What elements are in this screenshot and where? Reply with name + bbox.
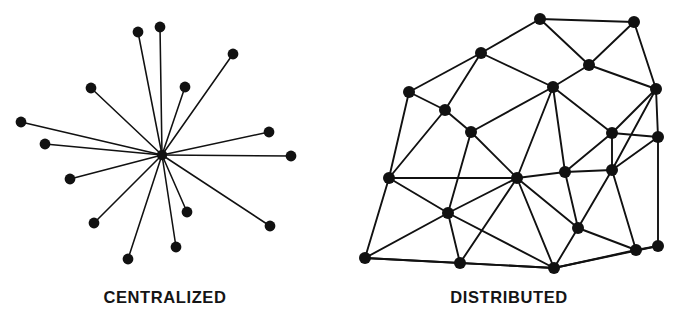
mesh-edge xyxy=(445,53,481,110)
mesh-edge xyxy=(460,178,517,263)
mesh-edge xyxy=(565,170,612,172)
panel-centralized: CENTRALIZED xyxy=(0,0,338,329)
mesh-node xyxy=(583,59,595,71)
mesh-node xyxy=(559,166,571,178)
mesh-node xyxy=(359,252,371,264)
mesh-node xyxy=(606,164,618,176)
mesh-edge xyxy=(481,19,540,53)
leaf-node xyxy=(155,22,166,33)
mesh-edge xyxy=(554,246,658,268)
spoke-edge xyxy=(162,54,233,155)
mesh-edge xyxy=(612,137,658,170)
leaf-node xyxy=(265,221,276,232)
network-topology-figure: CENTRALIZED DISTRIBUTED xyxy=(0,0,676,329)
mesh-edge xyxy=(634,22,656,89)
centralized-edge-group xyxy=(21,27,291,259)
leaf-node xyxy=(228,49,239,60)
spoke-edge xyxy=(45,144,162,155)
mesh-node xyxy=(465,126,477,138)
distributed-node-group xyxy=(359,13,664,274)
mesh-edge xyxy=(578,228,636,250)
mesh-edge xyxy=(612,89,656,170)
spoke-edge xyxy=(162,155,291,156)
leaf-node xyxy=(182,207,193,218)
mesh-node xyxy=(650,83,662,95)
mesh-edge xyxy=(389,178,448,213)
mesh-node xyxy=(652,131,664,143)
distributed-network-diagram xyxy=(338,0,676,285)
distributed-edge-group xyxy=(365,19,658,268)
leaf-node xyxy=(40,139,51,150)
mesh-node xyxy=(606,127,618,139)
mesh-node xyxy=(572,222,584,234)
leaf-node xyxy=(89,218,100,229)
mesh-edge xyxy=(409,92,445,110)
leaf-node xyxy=(286,151,297,162)
spoke-edge xyxy=(94,155,162,223)
mesh-edge xyxy=(481,53,553,87)
leaf-node xyxy=(16,117,27,128)
mesh-node xyxy=(534,13,546,25)
leaf-node xyxy=(123,254,134,265)
leaf-node xyxy=(264,127,275,138)
leaf-node xyxy=(86,83,97,94)
mesh-edge xyxy=(612,170,636,250)
mesh-node xyxy=(403,86,415,98)
leaf-node xyxy=(133,27,144,38)
mesh-node xyxy=(439,104,451,116)
mesh-edge xyxy=(517,178,554,268)
mesh-node xyxy=(442,207,454,219)
mesh-edge xyxy=(565,133,612,172)
spoke-edge xyxy=(70,155,162,179)
panel-distributed: DISTRIBUTED xyxy=(338,0,676,329)
mesh-node xyxy=(511,172,523,184)
mesh-edge xyxy=(553,87,565,172)
mesh-edge xyxy=(589,22,634,65)
leaf-node xyxy=(180,82,191,93)
mesh-node xyxy=(652,240,664,252)
mesh-node xyxy=(628,16,640,28)
centralized-node-group xyxy=(16,22,297,265)
mesh-edge xyxy=(517,172,565,178)
mesh-edge xyxy=(409,53,481,92)
spoke-edge xyxy=(21,122,162,155)
mesh-node xyxy=(630,244,642,256)
mesh-node xyxy=(548,262,560,274)
spoke-edge xyxy=(162,132,269,155)
spoke-edge xyxy=(128,155,162,259)
mesh-edge xyxy=(578,170,612,228)
mesh-edge xyxy=(589,65,656,89)
caption-distributed: DISTRIBUTED xyxy=(340,288,676,307)
mesh-edge xyxy=(448,132,471,213)
mesh-edge xyxy=(553,65,589,87)
mesh-edge xyxy=(448,213,460,263)
mesh-edge xyxy=(540,19,589,65)
centralized-network-diagram xyxy=(0,0,338,285)
mesh-edge xyxy=(612,133,658,137)
mesh-node xyxy=(454,257,466,269)
mesh-edge xyxy=(553,87,612,133)
mesh-node xyxy=(547,81,559,93)
mesh-edge xyxy=(517,87,553,178)
leaf-node xyxy=(171,242,182,253)
mesh-edge xyxy=(656,89,658,137)
spoke-edge xyxy=(162,87,185,155)
spoke-edge xyxy=(162,155,176,247)
mesh-edge xyxy=(471,87,553,132)
mesh-edge xyxy=(612,89,656,133)
mesh-node xyxy=(475,47,487,59)
mesh-node xyxy=(383,172,395,184)
leaf-node xyxy=(65,174,76,185)
mesh-edge xyxy=(471,132,517,178)
spoke-edge xyxy=(160,27,162,155)
mesh-edge xyxy=(540,19,634,22)
caption-centralized: CENTRALIZED xyxy=(0,288,334,307)
mesh-edge xyxy=(554,228,578,268)
hub-node xyxy=(157,150,167,160)
mesh-edge xyxy=(448,178,517,213)
